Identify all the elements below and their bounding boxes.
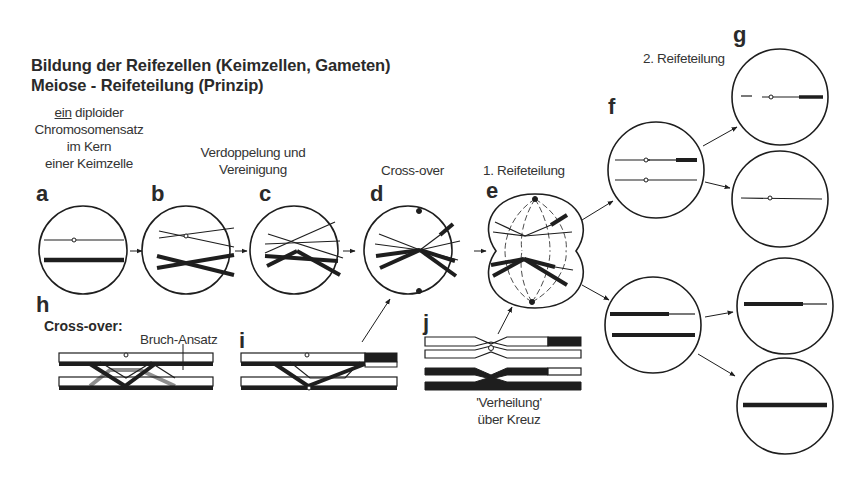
arrow-i-d: [362, 299, 390, 342]
crossover-j: [425, 337, 581, 390]
arrow-f-g2: [705, 182, 730, 188]
cell-g3: [737, 258, 833, 354]
cell-c: [250, 206, 343, 294]
cell-g1: [732, 49, 828, 145]
cell-a: [39, 206, 127, 294]
arrow-j-e: [498, 307, 512, 334]
crossover-h: [59, 344, 213, 388]
meiosis-diagram: [0, 0, 862, 478]
arrow-f-g4: [698, 354, 735, 376]
arrow-f-g3: [705, 312, 733, 317]
arrow-f-g1: [703, 127, 737, 146]
cell-d: [364, 206, 460, 294]
cell-f-upper: [608, 122, 704, 218]
cell-g2: [732, 151, 828, 247]
arrow-e-f-upper: [582, 201, 613, 220]
arrow-e-f-lower: [582, 285, 609, 300]
crossover-i: [241, 353, 397, 390]
cell-b: [142, 206, 234, 294]
cell-e: [489, 194, 584, 308]
cell-f-lower: [605, 277, 701, 373]
cell-g4: [737, 358, 833, 454]
